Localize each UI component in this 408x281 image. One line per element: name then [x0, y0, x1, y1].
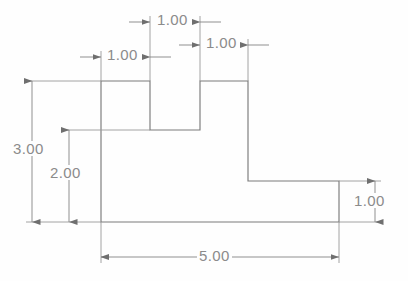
dimension-label-left-tab-width: 1.00	[105, 47, 140, 62]
part-outline-group	[101, 81, 339, 222]
dimension-label-overall-width: 5.00	[197, 248, 232, 263]
extension-lines-group	[26, 16, 381, 263]
stepped-profile-outline	[101, 81, 339, 222]
technical-drawing-canvas: 1.00 1.00 1.00 3.00 2.00 1.00 5.00	[0, 0, 408, 281]
dimension-label-overall-height: 3.00	[11, 141, 46, 156]
dimension-label-right-tab-width: 1.00	[204, 35, 239, 50]
dimension-label-top-notch-width: 1.00	[155, 12, 190, 27]
dimension-label-right-flange-height: 1.00	[352, 193, 387, 208]
dimension-label-shoulder-height: 2.00	[48, 165, 83, 180]
